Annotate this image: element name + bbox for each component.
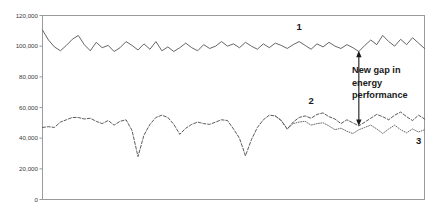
y-tick-label: 120,000 — [16, 12, 39, 19]
annotation-text-group: New gap inenergyperformance — [352, 65, 408, 100]
gap-arrow — [356, 51, 361, 126]
y-tick-label: 100,000 — [16, 42, 39, 49]
annotation-line: New gap in — [352, 65, 401, 75]
series-line-3 — [275, 116, 424, 134]
energy-performance-chart: 120,000100,00080,00060,00040,00020,0000 … — [0, 0, 437, 215]
y-axis-tick-labels: 120,000100,00080,00060,00040,00020,0000 — [16, 12, 39, 203]
series-label-1: 1 — [297, 21, 303, 32]
annotation-line: performance — [352, 90, 408, 100]
y-tick-label: 60,000 — [19, 104, 38, 111]
series-line-1 — [43, 30, 425, 51]
y-tick-label: 20,000 — [19, 165, 38, 172]
y-tick-label: 80,000 — [19, 73, 38, 80]
y-tick-label: 40,000 — [19, 134, 38, 141]
gap-arrow-head-top — [356, 51, 361, 58]
annotation-line: energy — [352, 78, 383, 88]
series-line-2 — [43, 112, 425, 156]
series-label-2: 2 — [308, 95, 313, 106]
series-label-3: 3 — [416, 135, 421, 146]
chart-canvas: 120,000100,00080,00060,00040,00020,0000 … — [0, 0, 437, 215]
y-tick-label: 0 — [35, 196, 39, 203]
